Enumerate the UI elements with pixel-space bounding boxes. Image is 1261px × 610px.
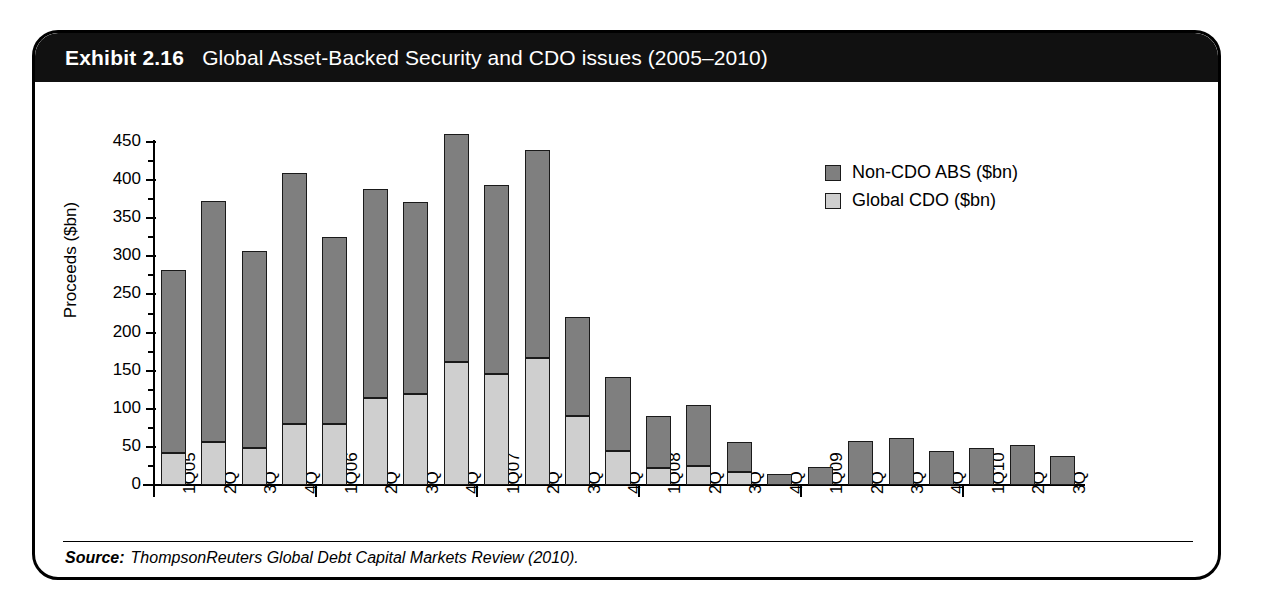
bar-segment-non-cdo-abs[interactable] — [686, 405, 711, 466]
bar-segment-global-cdo[interactable] — [403, 394, 428, 485]
bar-segment-non-cdo-abs[interactable] — [444, 134, 469, 362]
bar-segment-global-cdo[interactable] — [565, 416, 590, 485]
bar-4q-11[interactable] — [605, 377, 630, 485]
legend-item-global-cdo: Global CDO ($bn) — [825, 190, 1018, 211]
legend-swatch-non-cdo-abs — [825, 165, 841, 181]
y-tick-label: 250 — [81, 283, 141, 303]
bar-segment-non-cdo-abs[interactable] — [484, 185, 509, 375]
y-tick-label: 0 — [81, 474, 141, 494]
bar-segment-global-cdo[interactable] — [322, 424, 347, 485]
bar-1q07-8[interactable] — [484, 185, 509, 485]
x-major-tick-mark — [315, 486, 317, 497]
bar-4q-3[interactable] — [282, 173, 307, 486]
chart-legend: Non-CDO ABS ($bn) Global CDO ($bn) — [825, 162, 1018, 218]
bar-1q06-4[interactable] — [322, 237, 347, 485]
bar-3q-10[interactable] — [565, 317, 590, 485]
bar-segment-non-cdo-abs[interactable] — [605, 377, 630, 451]
bar-segment-non-cdo-abs[interactable] — [282, 173, 307, 425]
bar-3q-2[interactable] — [242, 251, 267, 485]
x-major-tick-mark — [153, 486, 155, 497]
bar-segment-non-cdo-abs[interactable] — [808, 467, 833, 485]
bar-1q05-0[interactable] — [161, 270, 186, 485]
bar-segment-non-cdo-abs[interactable] — [889, 438, 914, 485]
bar-2q-17[interactable] — [848, 441, 873, 485]
y-tick-label: 300 — [81, 245, 141, 265]
exhibit-card: Exhibit 2.16 Global Asset-Backed Securit… — [32, 30, 1221, 580]
bar-2q-5[interactable] — [363, 189, 388, 485]
bar-segment-non-cdo-abs[interactable] — [201, 201, 226, 442]
x-major-tick-mark — [476, 486, 478, 497]
bar-segment-non-cdo-abs[interactable] — [969, 448, 994, 485]
bar-4q-19[interactable] — [929, 451, 954, 485]
y-tick-label: 400 — [81, 169, 141, 189]
y-tick-label: 100 — [81, 398, 141, 418]
bar-segment-global-cdo[interactable] — [727, 472, 752, 485]
bar-1q08-12[interactable] — [646, 416, 671, 485]
bar-4q-7[interactable] — [444, 134, 469, 485]
bar-2q-13[interactable] — [686, 405, 711, 485]
bar-2q-9[interactable] — [525, 150, 550, 485]
bar-segment-non-cdo-abs[interactable] — [929, 451, 954, 485]
bar-segment-non-cdo-abs[interactable] — [646, 416, 671, 468]
bar-2q-21[interactable] — [1010, 445, 1035, 485]
bar-3q-18[interactable] — [889, 438, 914, 485]
x-major-tick-mark — [962, 486, 964, 497]
bar-segment-global-cdo[interactable] — [161, 453, 186, 485]
y-tick-label: 350 — [81, 207, 141, 227]
source-line: Source:ThompsonReuters Global Debt Capit… — [65, 549, 579, 567]
y-tick-label: 50 — [81, 436, 141, 456]
x-major-tick-mark — [638, 486, 640, 497]
y-axis-title: Proceeds ($bn) — [61, 170, 81, 350]
legend-label-global-cdo: Global CDO ($bn) — [852, 190, 996, 211]
bar-segment-non-cdo-abs[interactable] — [565, 317, 590, 416]
exhibit-number: Exhibit 2.16 — [65, 46, 184, 70]
legend-item-non-cdo-abs: Non-CDO ABS ($bn) — [825, 162, 1018, 183]
bar-1q09-16[interactable] — [808, 467, 833, 485]
bar-segment-global-cdo[interactable] — [605, 451, 630, 485]
x-major-tick-mark — [800, 486, 802, 497]
bar-segment-non-cdo-abs[interactable] — [403, 202, 428, 393]
bar-segment-global-cdo[interactable] — [201, 442, 226, 485]
bar-3q-14[interactable] — [727, 442, 752, 485]
bar-segment-global-cdo[interactable] — [242, 448, 267, 485]
bar-1q10-20[interactable] — [969, 448, 994, 485]
legend-swatch-global-cdo — [825, 193, 841, 209]
bar-segment-non-cdo-abs[interactable] — [767, 474, 792, 485]
bar-segment-non-cdo-abs[interactable] — [848, 441, 873, 485]
y-tick-label: 200 — [81, 322, 141, 342]
bar-segment-non-cdo-abs[interactable] — [161, 270, 186, 453]
bar-segment-non-cdo-abs[interactable] — [727, 442, 752, 472]
bar-segment-global-cdo[interactable] — [444, 362, 469, 485]
source-label: Source: — [65, 549, 125, 566]
legend-label-non-cdo-abs: Non-CDO ABS ($bn) — [852, 162, 1018, 183]
bar-segment-global-cdo[interactable] — [484, 374, 509, 485]
y-tick-label: 450 — [81, 131, 141, 151]
bar-segment-global-cdo[interactable] — [363, 398, 388, 485]
exhibit-title-banner: Exhibit 2.16 Global Asset-Backed Securit… — [35, 33, 1218, 82]
bar-2q-1[interactable] — [201, 201, 226, 485]
bar-3q-6[interactable] — [403, 202, 428, 485]
chart-plot-body: Proceeds ($bn) 0501001502002503003504004… — [35, 82, 1218, 541]
source-text: ThompsonReuters Global Debt Capital Mark… — [131, 549, 579, 566]
source-divider — [63, 541, 1193, 542]
y-tick-label: 150 — [81, 360, 141, 380]
bar-3q-22[interactable] — [1050, 456, 1075, 485]
bar-segment-global-cdo[interactable] — [646, 468, 671, 485]
bar-segment-non-cdo-abs[interactable] — [242, 251, 267, 448]
exhibit-title: Global Asset-Backed Security and CDO iss… — [202, 46, 768, 70]
bar-segment-non-cdo-abs[interactable] — [1050, 456, 1075, 485]
bar-segment-non-cdo-abs[interactable] — [525, 150, 550, 358]
bar-segment-non-cdo-abs[interactable] — [363, 189, 388, 398]
bar-segment-global-cdo[interactable] — [282, 424, 307, 485]
bar-segment-global-cdo[interactable] — [686, 466, 711, 485]
bar-segment-non-cdo-abs[interactable] — [322, 237, 347, 425]
bar-segment-non-cdo-abs[interactable] — [1010, 445, 1035, 485]
bar-segment-global-cdo[interactable] — [525, 358, 550, 485]
bar-4q-15[interactable] — [767, 474, 792, 485]
